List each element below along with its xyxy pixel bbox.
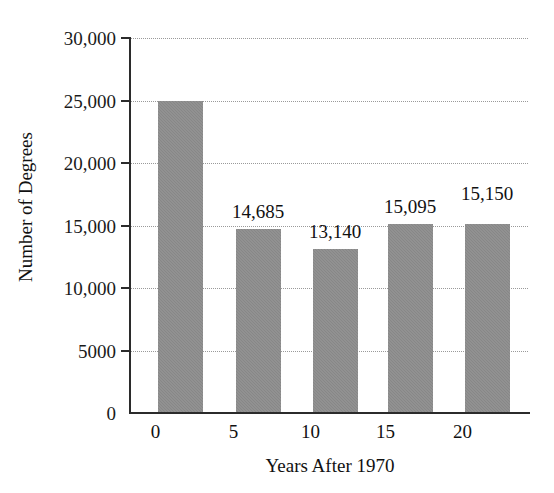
bar-20 [465, 224, 510, 413]
y-tick-30000 [121, 37, 130, 39]
y-tick-25000 [121, 100, 130, 102]
bar-15 [388, 224, 433, 413]
y-tick-5000 [121, 350, 130, 352]
y-axis-title: Number of Degrees [15, 97, 37, 317]
bar-value-label-5: 14,685 [188, 202, 328, 221]
x-tick-label-20: 20 [417, 421, 508, 443]
x-axis-title: Years After 1970 [130, 455, 530, 477]
y-tick-10000 [121, 287, 130, 289]
bar-chart-figure: 14,685 13,140 15,095 15,150 30,000 25,00… [0, 0, 554, 493]
y-tick-15000 [121, 225, 130, 227]
plot-area: 14,685 13,140 15,095 15,150 [130, 38, 528, 413]
gridline-30000 [130, 38, 528, 39]
bar-0 [158, 101, 203, 414]
bar-value-label-10: 13,140 [265, 222, 405, 241]
bar-value-label-20: 15,150 [417, 184, 554, 203]
x-axis-line [129, 412, 530, 414]
y-tick-label-5000: 5000 [0, 342, 116, 361]
bar-10 [313, 249, 358, 413]
bar-5 [236, 229, 281, 413]
y-tick-20000 [121, 162, 130, 164]
y-tick-label-30000: 30,000 [0, 29, 116, 48]
y-tick-label-0: 0 [0, 404, 116, 423]
